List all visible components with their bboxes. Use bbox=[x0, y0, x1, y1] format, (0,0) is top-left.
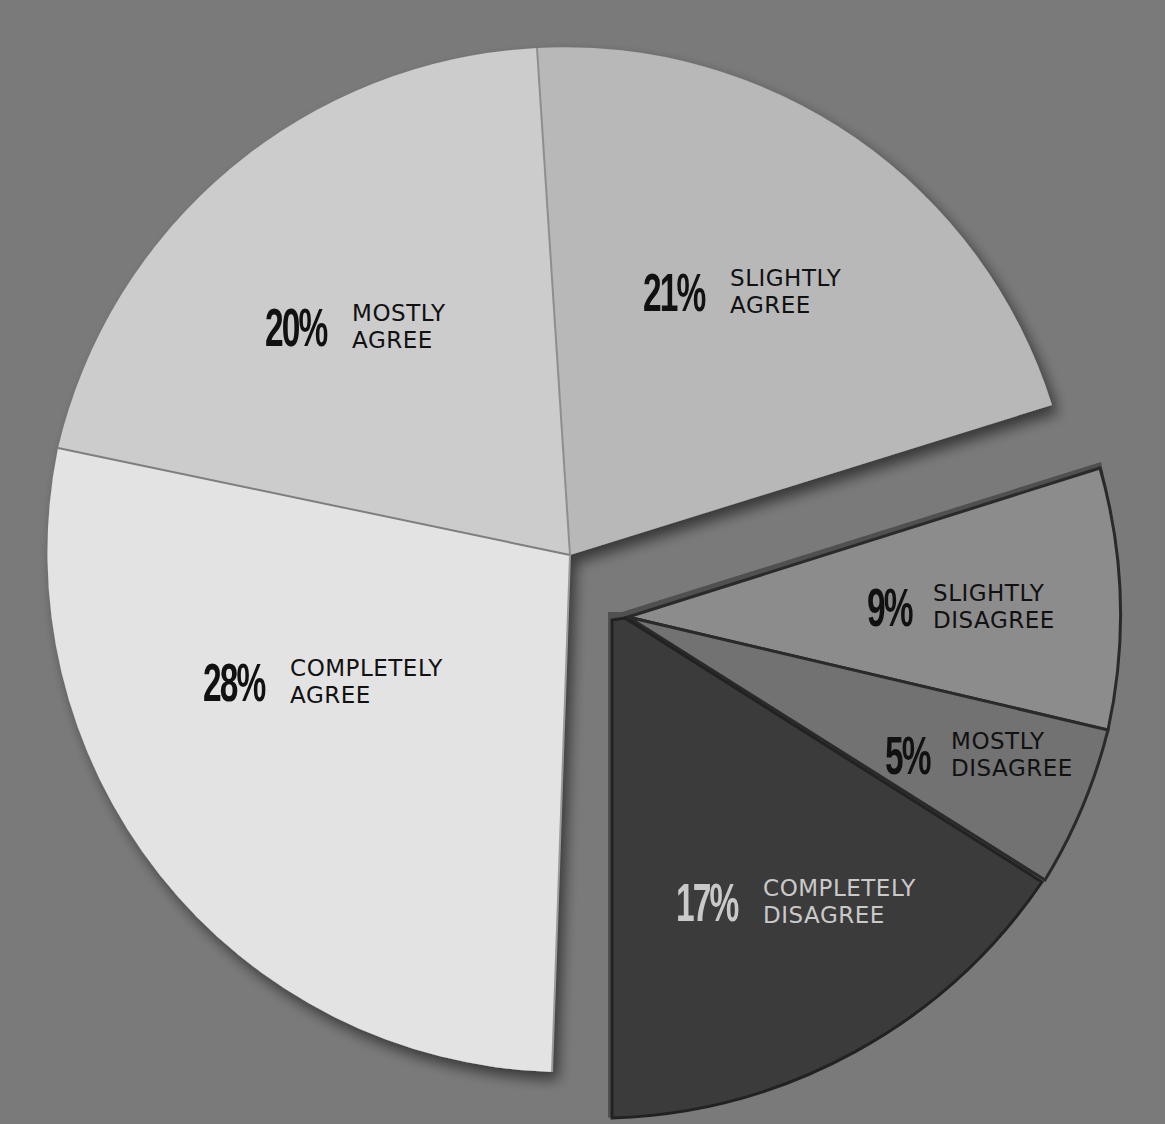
text-completely-agree: COMPLETELY AGREE bbox=[290, 655, 443, 709]
pct-completely-agree: 28% bbox=[203, 655, 264, 709]
label-completely-agree: 28% COMPLETELY AGREE bbox=[203, 655, 443, 709]
text-completely-disagree: COMPLETELY DISAGREE bbox=[763, 875, 916, 929]
label-slightly-agree: 21% SLIGHTLY AGREE bbox=[643, 265, 841, 319]
disagree-group bbox=[608, 462, 1120, 1118]
label-mostly-agree: 20% MOSTLY AGREE bbox=[265, 300, 446, 354]
label-completely-disagree: 17% COMPLETELY DISAGREE bbox=[676, 875, 916, 929]
text-slightly-agree: SLIGHTLY AGREE bbox=[730, 265, 841, 319]
pie-chart-graphic bbox=[0, 0, 1165, 1124]
pct-slightly-agree: 21% bbox=[643, 265, 704, 319]
text-slightly-disagree: SLIGHTLY DISAGREE bbox=[933, 580, 1055, 634]
pie-chart: 20% MOSTLY AGREE 21% SLIGHTLY AGREE 28% … bbox=[0, 0, 1165, 1124]
label-mostly-disagree: 5% MOSTLY DISAGREE bbox=[885, 728, 1073, 782]
label-slightly-disagree: 9% SLIGHTLY DISAGREE bbox=[867, 580, 1055, 634]
pct-slightly-disagree: 9% bbox=[867, 580, 912, 634]
pct-mostly-disagree: 5% bbox=[885, 728, 930, 782]
text-mostly-agree: MOSTLY AGREE bbox=[352, 300, 445, 354]
pct-mostly-agree: 20% bbox=[265, 300, 326, 354]
slice-completely-agree bbox=[47, 448, 570, 1072]
text-mostly-disagree: MOSTLY DISAGREE bbox=[951, 728, 1073, 782]
pct-completely-disagree: 17% bbox=[676, 875, 737, 929]
